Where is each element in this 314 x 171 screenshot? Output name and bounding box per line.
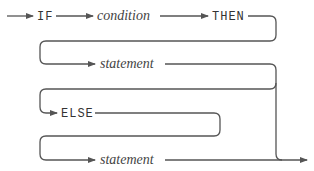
nonterminal-statement-then: statement	[100, 56, 155, 71]
keyword-then: THEN	[212, 10, 245, 24]
nonterminal-statement-else: statement	[100, 152, 155, 167]
path-bypass-else	[276, 83, 282, 160]
keyword-if: IF	[37, 10, 53, 24]
nonterminal-condition: condition	[97, 8, 150, 23]
keyword-else: ELSE	[61, 107, 94, 121]
path-statement-else	[40, 64, 276, 113]
railroad-diagram: IF condition THEN statement ELSE stateme…	[0, 0, 314, 171]
